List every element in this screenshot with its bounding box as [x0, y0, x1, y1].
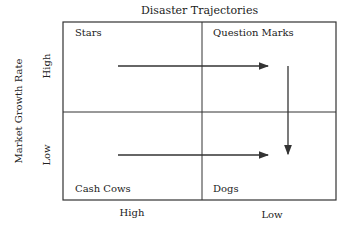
quadrant-cash-cows: Cash Cows — [75, 183, 131, 194]
quadrant-stars: Stars — [75, 27, 102, 38]
quadrant-dogs: Dogs — [213, 183, 239, 194]
quadrant-question-marks: Question Marks — [213, 27, 294, 38]
matrix-graphic — [0, 0, 353, 227]
matrix-border — [63, 22, 336, 200]
